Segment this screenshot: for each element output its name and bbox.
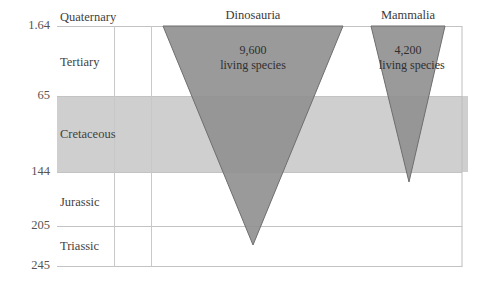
dinosauria-species-count: 9,600 [203, 43, 303, 58]
dinosauria-species-annotation: 9,600 living species [203, 43, 303, 73]
period-label-tertiary: Tertiary [60, 55, 99, 69]
geologic-time-species-diagram: 1.64 65 144 205 245 Quaternary Tertiary … [0, 0, 482, 285]
axis-tick-label-5: 245 [6, 258, 50, 272]
period-label-jurassic: Jurassic [60, 195, 100, 209]
mammalia-species-caption: living species [379, 58, 437, 73]
period-label-quaternary: Quaternary [60, 10, 116, 24]
axis-tick-label-3: 144 [6, 164, 50, 178]
axis-tick-label-4: 205 [6, 218, 50, 232]
axis-tick-label-1: 1.64 [6, 18, 50, 32]
period-label-triassic: Triassic [60, 239, 99, 253]
mammalia-species-annotation: 4,200 living species [379, 43, 437, 73]
period-label-cretaceous: Cretaceous [60, 127, 116, 141]
axis-tick-label-2: 65 [6, 88, 50, 102]
mammalia-species-count: 4,200 [379, 43, 437, 58]
clade-title-mammalia: Mammalia [368, 8, 448, 22]
clade-title-dinosauria: Dinosauria [193, 8, 313, 22]
dinosauria-species-caption: living species [203, 58, 303, 73]
